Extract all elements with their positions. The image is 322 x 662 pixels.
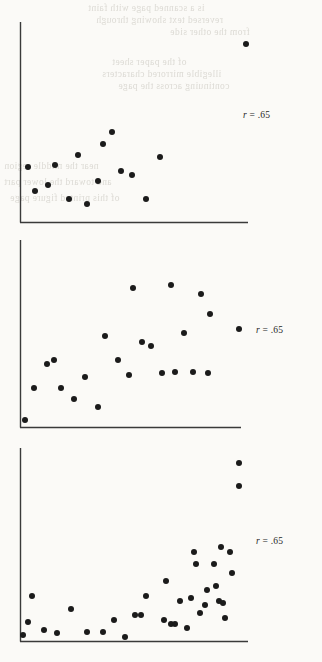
data-point (243, 41, 249, 47)
r-equals-value: = (260, 325, 271, 335)
data-point (100, 629, 106, 635)
data-point (66, 196, 72, 202)
data-point (143, 593, 149, 599)
data-point (157, 154, 163, 160)
data-point (126, 372, 132, 378)
data-point (138, 612, 144, 618)
data-point (218, 544, 224, 550)
data-point (211, 561, 217, 567)
data-point (227, 549, 233, 555)
correlation-label-middle: r = .65 (256, 325, 283, 335)
data-point (118, 168, 124, 174)
r-equals-value: = (260, 536, 271, 546)
data-point (172, 369, 178, 375)
data-point (100, 141, 106, 147)
r-equals-value: = (247, 110, 258, 120)
r-value: .65 (258, 110, 270, 120)
scatterplot-middle: r = .65 (0, 240, 322, 435)
data-point (181, 330, 187, 336)
data-point (139, 339, 145, 345)
data-point (190, 369, 196, 375)
data-point (32, 188, 38, 194)
data-point (188, 595, 194, 601)
r-value: .65 (271, 325, 283, 335)
data-point (236, 326, 242, 332)
scatterplot-bottom: r = .65 (0, 448, 322, 662)
data-point (25, 619, 31, 625)
scatterplot-top: r = .65 (0, 0, 322, 232)
data-point (132, 612, 138, 618)
data-point (58, 385, 64, 391)
plot-axes-top (0, 0, 270, 232)
data-point (148, 343, 154, 349)
data-point (68, 606, 74, 612)
data-point (95, 178, 101, 184)
data-point (25, 164, 31, 170)
data-point (45, 182, 51, 188)
data-point (236, 483, 242, 489)
correlation-label-top: r = .65 (243, 110, 270, 120)
data-point (184, 625, 190, 631)
data-point (197, 610, 203, 616)
data-point (202, 602, 208, 608)
data-point (84, 629, 90, 635)
data-point (95, 404, 101, 410)
plot-axes-middle (0, 240, 270, 435)
data-point (41, 627, 47, 633)
correlation-label-bottom: r = .65 (256, 536, 283, 546)
data-point (143, 196, 149, 202)
data-point (82, 374, 88, 380)
data-point (193, 561, 199, 567)
r-value: .65 (271, 536, 283, 546)
data-point (191, 549, 197, 555)
data-point (163, 578, 169, 584)
scanned-figure-page: is a scanned page with faint reversed te… (0, 0, 322, 662)
data-point (109, 129, 115, 135)
data-point (168, 282, 174, 288)
